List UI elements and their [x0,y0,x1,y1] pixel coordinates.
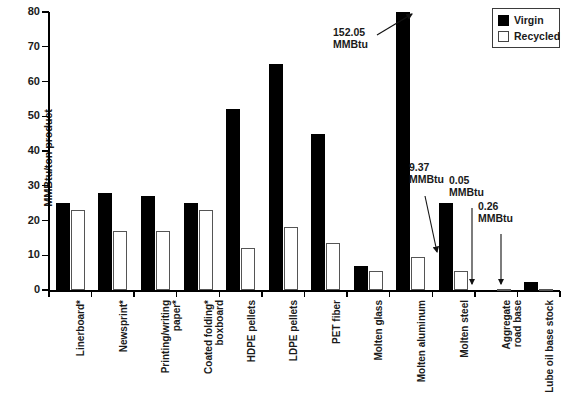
y-axis-tick-label: 30 [18,180,40,191]
x-axis-tick [176,291,177,297]
bar-recycled [284,227,298,290]
x-axis-tick [389,291,390,297]
y-axis-tick [42,46,49,47]
bar-recycled [411,257,425,290]
bar-virgin [226,109,240,290]
legend: Virgin Recycled [492,8,560,48]
x-axis-category-label: HDPE pellets [247,300,258,396]
bar-virgin [141,196,155,290]
bar-recycled [113,231,127,290]
bar-virgin [56,203,70,290]
x-axis-tick [91,291,92,297]
bar-recycled [156,231,170,290]
y-axis-tick [42,116,49,117]
bar-recycled [454,271,468,290]
y-axis-tick-label: 10 [18,249,40,260]
y-axis-tick-label: 40 [18,145,40,156]
annotation-lube-oil-base-stock: 0.26 MMBtu [478,201,526,224]
x-axis-category-label: Molten glass [374,300,385,396]
bar-virgin [184,203,198,290]
x-axis-tick [133,291,134,297]
y-axis-tick [42,11,49,12]
bar-virgin [311,134,325,290]
bar-virgin [354,266,368,290]
y-axis-tick [42,255,49,256]
bar-recycled [199,210,213,290]
legend-swatch-virgin-icon [498,15,509,26]
bar-virgin [269,64,283,290]
bar-virgin [396,12,410,290]
x-axis-category-label: LDPE pellets [289,300,300,396]
y-axis-tick-label: 60 [18,76,40,87]
x-axis-tick [346,291,347,297]
x-axis-tick [48,291,49,297]
x-axis-category-label: Molten steel [460,300,471,396]
x-axis-category-label: Linerboard* [76,300,87,396]
bar-recycled [71,210,85,290]
annotation-molten-aluminum-virgin: 152.05 MMBtu [333,27,379,50]
bar-recycled [369,271,383,290]
y-axis-tick [42,185,49,186]
y-axis-tick [42,150,49,151]
x-axis-tick [559,291,560,297]
x-axis-category-label: Molten aluminum [417,300,428,396]
legend-item-virgin: Virgin [498,14,544,27]
legend-label-virgin: Virgin [514,15,544,26]
annotation-aggregate-road-base: 0.05 MMBtu [449,175,497,198]
x-axis-category-label: Lube oil base stock [545,300,556,396]
legend-swatch-recycled-icon [498,31,509,42]
y-axis-tick [42,81,49,82]
x-axis-category-label: Printing/writing paper* [161,300,182,396]
x-axis-category-label: Newsprint* [119,300,130,396]
x-axis-tick [304,291,305,297]
y-axis-tick [42,220,49,221]
y-axis-tick-label: 20 [18,215,40,226]
legend-item-recycled: Recycled [498,30,560,43]
x-axis-category-label: Coated folding* boxboard [204,300,225,396]
x-axis-tick [219,291,220,297]
x-axis-tick [517,291,518,297]
x-axis-tick [432,291,433,297]
bar-virgin [524,282,538,290]
x-axis-tick [474,291,475,297]
bar-virgin [439,203,453,290]
x-axis-category-label: Aggregate road base [502,300,523,396]
bar-virgin [98,193,112,290]
bar-recycled [497,289,511,291]
bar-recycled [241,248,255,290]
bar-recycled [539,289,553,291]
x-axis-category-label: PET fiber [332,300,343,396]
bar-recycled [326,243,340,290]
y-axis-tick-label: 0 [18,284,40,295]
y-axis-tick-label: 70 [18,41,40,52]
y-axis-tick-label: 80 [18,6,40,17]
y-axis-tick-label: 50 [18,110,40,121]
legend-label-recycled: Recycled [514,31,560,42]
x-axis-tick [261,291,262,297]
